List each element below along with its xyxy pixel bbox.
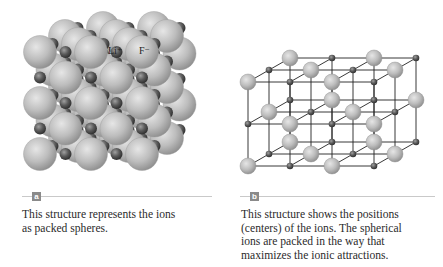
divider-rule xyxy=(240,196,435,197)
caption-line: (centers) of the ions. The spherical xyxy=(241,222,402,236)
panel-label-badge: a xyxy=(32,192,41,201)
lithium-ion-label: Li⁺ xyxy=(108,45,122,56)
divider-rule xyxy=(22,196,212,197)
panel-a: Li⁺ F⁻ a This structure represents the i… xyxy=(0,0,220,267)
caption-line: ions are packed in the way that xyxy=(241,235,402,249)
caption-b: This structure shows the positions (cent… xyxy=(241,208,402,262)
panel-b: b This structure shows the positions (ce… xyxy=(222,0,443,267)
packed-spheres-model xyxy=(0,0,220,190)
caption-line: as packed spheres. xyxy=(22,222,175,236)
caption-a: This structure represents the ions as pa… xyxy=(22,208,175,235)
panel-label-badge: b xyxy=(250,192,259,201)
lattice-model xyxy=(222,0,443,190)
fluoride-ion-label: F⁻ xyxy=(139,45,150,56)
caption-line: maximizes the ionic attractions. xyxy=(241,249,402,263)
caption-line: This structure shows the positions xyxy=(241,208,402,222)
caption-line: This structure represents the ions xyxy=(22,208,175,222)
